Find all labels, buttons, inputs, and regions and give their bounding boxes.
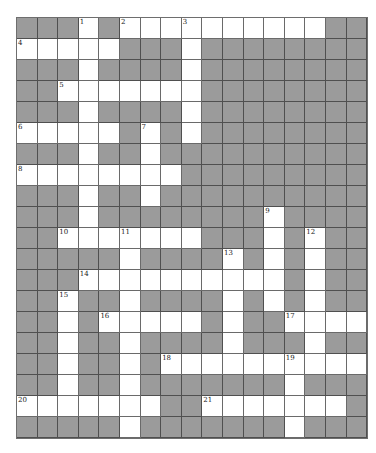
crossword-cell[interactable] [99, 165, 120, 186]
crossword-cell[interactable] [182, 312, 203, 333]
crossword-cell[interactable] [326, 312, 347, 333]
crossword-cell[interactable] [285, 18, 306, 39]
crossword-cell[interactable] [285, 396, 306, 417]
crossword-cell[interactable] [285, 375, 306, 396]
crossword-cell[interactable]: 2 [120, 18, 141, 39]
crossword-cell[interactable] [264, 249, 285, 270]
crossword-cell[interactable] [182, 123, 203, 144]
crossword-cell[interactable] [264, 354, 285, 375]
crossword-cell[interactable] [99, 228, 120, 249]
crossword-cell[interactable] [161, 228, 182, 249]
crossword-cell[interactable] [305, 291, 326, 312]
crossword-cell[interactable] [264, 228, 285, 249]
crossword-cell[interactable] [223, 396, 244, 417]
crossword-cell[interactable] [264, 270, 285, 291]
crossword-cell[interactable]: 3 [182, 18, 203, 39]
crossword-cell[interactable] [285, 417, 306, 438]
crossword-cell[interactable] [305, 333, 326, 354]
crossword-cell[interactable] [141, 81, 162, 102]
crossword-cell[interactable] [305, 354, 326, 375]
crossword-cell[interactable] [223, 333, 244, 354]
crossword-cell[interactable] [120, 417, 141, 438]
crossword-cell[interactable] [120, 375, 141, 396]
crossword-cell[interactable] [141, 270, 162, 291]
crossword-cell[interactable] [99, 39, 120, 60]
crossword-cell[interactable] [120, 396, 141, 417]
crossword-cell[interactable]: 1 [79, 18, 100, 39]
crossword-cell[interactable] [79, 102, 100, 123]
crossword-cell[interactable] [99, 123, 120, 144]
crossword-cell[interactable] [244, 270, 265, 291]
crossword-cell[interactable] [223, 354, 244, 375]
crossword-cell[interactable] [58, 123, 79, 144]
crossword-cell[interactable] [79, 123, 100, 144]
crossword-cell[interactable]: 5 [58, 81, 79, 102]
crossword-cell[interactable] [79, 228, 100, 249]
crossword-cell[interactable] [120, 165, 141, 186]
crossword-cell[interactable]: 9 [264, 207, 285, 228]
crossword-cell[interactable] [161, 312, 182, 333]
crossword-cell[interactable] [182, 270, 203, 291]
crossword-cell[interactable] [326, 354, 347, 375]
crossword-cell[interactable] [79, 186, 100, 207]
crossword-cell[interactable] [58, 165, 79, 186]
crossword-cell[interactable] [141, 312, 162, 333]
crossword-cell[interactable] [161, 165, 182, 186]
crossword-cell[interactable]: 17 [285, 312, 306, 333]
crossword-cell[interactable]: 12 [305, 228, 326, 249]
crossword-cell[interactable] [182, 102, 203, 123]
crossword-cell[interactable]: 14 [79, 270, 100, 291]
crossword-cell[interactable] [120, 312, 141, 333]
crossword-cell[interactable]: 15 [58, 291, 79, 312]
crossword-cell[interactable] [305, 396, 326, 417]
crossword-cell[interactable] [223, 291, 244, 312]
crossword-cell[interactable] [79, 396, 100, 417]
crossword-cell[interactable] [305, 249, 326, 270]
crossword-cell[interactable] [141, 144, 162, 165]
crossword-cell[interactable] [141, 396, 162, 417]
crossword-cell[interactable] [99, 270, 120, 291]
crossword-cell[interactable] [264, 291, 285, 312]
crossword-cell[interactable]: 13 [223, 249, 244, 270]
crossword-cell[interactable]: 4 [17, 39, 38, 60]
crossword-cell[interactable] [305, 312, 326, 333]
crossword-cell[interactable] [202, 354, 223, 375]
crossword-cell[interactable] [305, 270, 326, 291]
crossword-cell[interactable] [244, 396, 265, 417]
crossword-cell[interactable]: 16 [99, 312, 120, 333]
crossword-cell[interactable] [305, 18, 326, 39]
crossword-cell[interactable] [182, 354, 203, 375]
crossword-cell[interactable] [326, 396, 347, 417]
crossword-cell[interactable] [141, 165, 162, 186]
crossword-cell[interactable] [347, 312, 368, 333]
crossword-cell[interactable] [79, 81, 100, 102]
crossword-cell[interactable]: 10 [58, 228, 79, 249]
crossword-cell[interactable] [182, 228, 203, 249]
crossword-cell[interactable] [120, 333, 141, 354]
crossword-cell[interactable] [202, 270, 223, 291]
crossword-cell[interactable] [347, 354, 368, 375]
crossword-cell[interactable] [58, 354, 79, 375]
crossword-cell[interactable]: 21 [202, 396, 223, 417]
crossword-cell[interactable]: 8 [17, 165, 38, 186]
crossword-cell[interactable] [79, 165, 100, 186]
crossword-cell[interactable] [264, 18, 285, 39]
crossword-cell[interactable]: 7 [141, 123, 162, 144]
crossword-cell[interactable]: 20 [17, 396, 38, 417]
crossword-cell[interactable] [244, 18, 265, 39]
crossword-cell[interactable] [79, 39, 100, 60]
crossword-cell[interactable] [120, 249, 141, 270]
crossword-cell[interactable] [223, 18, 244, 39]
crossword-cell[interactable] [120, 270, 141, 291]
crossword-cell[interactable] [223, 312, 244, 333]
crossword-cell[interactable] [58, 312, 79, 333]
crossword-cell[interactable] [202, 18, 223, 39]
crossword-cell[interactable] [58, 375, 79, 396]
crossword-cell[interactable] [38, 396, 59, 417]
crossword-cell[interactable] [38, 165, 59, 186]
crossword-cell[interactable] [141, 186, 162, 207]
crossword-cell[interactable] [244, 354, 265, 375]
crossword-cell[interactable] [79, 207, 100, 228]
crossword-cell[interactable] [58, 396, 79, 417]
crossword-cell[interactable] [141, 18, 162, 39]
